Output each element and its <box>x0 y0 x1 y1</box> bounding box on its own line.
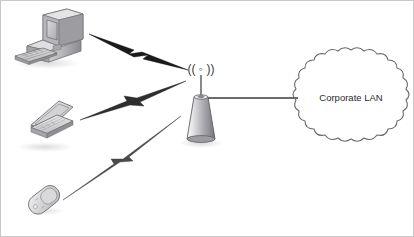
cloud-label: Corporate LAN <box>319 92 383 103</box>
wireless-link-laptop <box>80 81 186 120</box>
access-point-base <box>187 136 215 143</box>
access-point-cone <box>187 97 215 139</box>
radio-wave-symbol: (( ◦ )) <box>188 62 215 76</box>
desktop-screen <box>47 20 57 40</box>
access-point-mast-socket <box>198 96 204 98</box>
network-diagram-canvas: (( ◦ )) Corporate LAN <box>0 0 414 237</box>
lightning-bolt-1 <box>89 34 188 70</box>
network-diagram: (( ◦ )) Corporate LAN <box>1 1 413 236</box>
lightning-bolt-3 <box>63 116 181 200</box>
lightning-bolt-2 <box>80 81 186 120</box>
mobile-phone-icon <box>25 182 65 218</box>
corporate-lan-cloud: Corporate LAN <box>293 48 409 142</box>
desktop-computer-icon <box>15 9 83 69</box>
laptop-computer-icon <box>17 101 73 152</box>
wireless-access-point-icon: (( ◦ )) <box>179 62 223 148</box>
wireless-link-desktop <box>89 34 188 70</box>
laptop-shadow <box>17 142 73 152</box>
wireless-link-phone <box>63 116 181 200</box>
